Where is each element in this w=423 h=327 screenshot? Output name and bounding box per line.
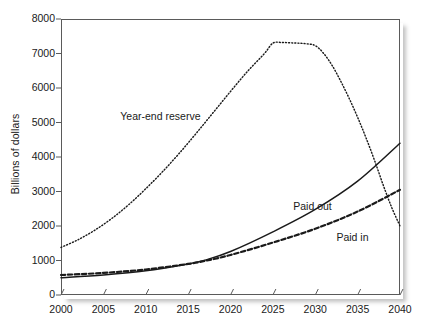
x-axis-tick-label: 2020	[219, 304, 242, 315]
x-axis-tick-label: 2015	[176, 304, 199, 315]
x-axis-tick-label: 2000	[49, 304, 72, 315]
x-axis-tick-label: 2005	[92, 304, 115, 315]
x-axis-tick-labels: 200020052010201520202025203020352040	[0, 0, 423, 327]
series-annotation-year-end-reserve: Year-end reserve	[120, 111, 200, 122]
x-axis-tick-label: 2010	[134, 304, 157, 315]
x-axis-tick-label: 2025	[261, 304, 284, 315]
x-axis-tick-label: 2035	[346, 304, 369, 315]
x-axis-tick-label: 2030	[304, 304, 327, 315]
x-axis-tick-label: 2040	[388, 304, 411, 315]
chart-figure: Billions of dollars 01000200030004000500…	[0, 0, 423, 327]
series-annotation-paid-out: Paid out	[293, 201, 332, 212]
series-annotation-paid-in: Paid in	[336, 232, 368, 243]
